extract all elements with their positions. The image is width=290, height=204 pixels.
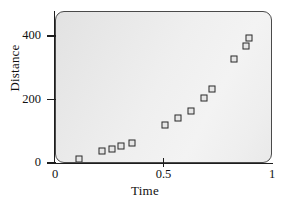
data-point	[128, 140, 135, 147]
data-points-layer	[56, 12, 271, 162]
y-axis-tick-label: 200	[22, 93, 41, 106]
data-point	[161, 121, 168, 128]
data-point	[230, 55, 237, 62]
data-point	[246, 34, 253, 41]
data-point	[243, 42, 250, 49]
plot-area	[55, 11, 272, 163]
data-point	[209, 86, 216, 93]
y-axis-tick	[47, 162, 56, 164]
y-axis-title: Distance	[7, 28, 23, 108]
y-axis-tick	[47, 35, 56, 37]
data-point	[118, 142, 125, 149]
x-axis-tick-label: 0	[52, 168, 58, 181]
y-axis-tick	[47, 99, 56, 101]
y-axis-tick-label: 400	[22, 29, 41, 42]
x-axis-title: Time	[0, 183, 290, 199]
y-axis-line	[54, 11, 55, 164]
data-point	[98, 147, 105, 154]
data-point	[200, 94, 207, 101]
data-point	[109, 146, 116, 153]
x-axis-tick-label: 1	[269, 168, 275, 181]
y-axis-tick-label: 0	[35, 156, 41, 169]
x-axis-tick	[163, 158, 165, 167]
data-point	[187, 107, 194, 114]
data-point	[76, 155, 83, 162]
x-axis-tick-label: 0.5	[156, 168, 172, 181]
data-point	[174, 114, 181, 121]
scatter-chart-figure: 0200400 00.51 Distance Time	[0, 0, 290, 204]
